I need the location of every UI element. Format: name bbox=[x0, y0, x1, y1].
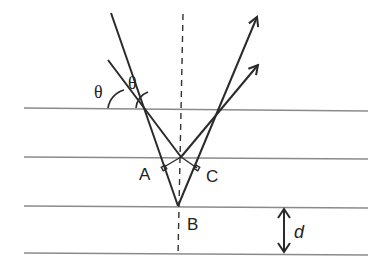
theta-label-right: θ bbox=[128, 73, 137, 93]
theta-arc-left bbox=[108, 90, 124, 108]
reflected-ray-inner bbox=[181, 65, 258, 157]
point-label-a: A bbox=[139, 165, 151, 184]
crystal-plane-4 bbox=[24, 253, 368, 255]
point-label-b: B bbox=[187, 215, 198, 234]
crystal-plane-2 bbox=[24, 157, 368, 159]
crystal-plane-3 bbox=[24, 206, 368, 208]
crystal-plane-1 bbox=[24, 108, 368, 111]
point-label-c: C bbox=[206, 167, 218, 186]
theta-label-left: θ bbox=[94, 82, 103, 102]
normal-line bbox=[178, 14, 183, 256]
spacing-label-d: d bbox=[294, 222, 305, 242]
bragg-diffraction-diagram: θ θ A C B d bbox=[0, 0, 392, 273]
